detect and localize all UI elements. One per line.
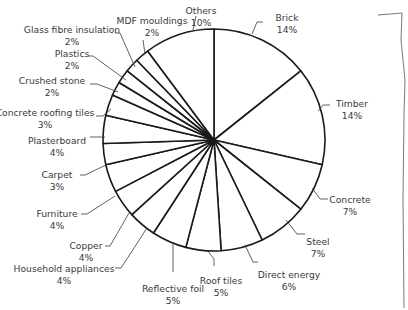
leader-line [115,33,135,67]
slice-label-name: Plasterboard [28,135,86,146]
slice-label-name: Direct energy [258,269,321,280]
leader-line [81,196,115,214]
slice-label-percent: 2% [145,27,160,38]
slice-label-percent: 4% [50,220,65,231]
slice-label: Concrete7% [329,194,371,217]
leader-line [143,40,145,54]
leader-line [80,164,108,175]
slice-label: Steel7% [306,236,329,259]
slice-label: Furniture4% [36,208,78,231]
slice-label-percent: 3% [50,181,65,192]
slice-label-percent: 2% [45,87,60,98]
slice-label: Direct energy6% [258,269,321,292]
slice-label: Reflective foil5% [142,283,204,306]
slice-label-name: Plastics [55,48,90,59]
slice-label: Household appliances4% [14,263,115,286]
leader-line [312,188,328,199]
slice-label-percent: 4% [57,275,72,286]
slice-label-name: Concrete roofing tiles [0,107,95,118]
slice-label-name: MDF mouldings [117,15,188,26]
leader-line [105,213,129,246]
slice-label-percent: 2% [65,36,80,47]
slice-label-percent: 5% [166,295,181,306]
slice-label-percent: 6% [282,281,297,292]
leader-line [115,228,147,268]
slice-label-name: Roof tiles [200,275,243,286]
slice-label: Roof tiles5% [200,275,243,298]
slice-label-name: Copper [69,240,102,251]
leader-line [88,56,126,80]
slice-label: Timber14% [335,98,368,121]
slice-label-name: Furniture [36,208,78,219]
slice-label-percent: 14% [277,24,298,35]
right-edge-bracket [378,13,405,308]
pie-chart: Brick14%Timber14%Concrete7%Steel7%Direct… [0,0,408,310]
slice-label-percent: 7% [311,248,326,259]
leader-line [252,22,263,34]
slice-label: Copper4% [69,240,102,263]
slice-label-name: Timber [335,98,368,109]
slice-label: Plastics2% [55,48,90,71]
slice-label: Others10% [186,5,217,28]
slice-label-percent: 7% [343,206,358,217]
slice-label-name: Brick [275,12,299,23]
leader-line [245,245,258,262]
slice-label-name: Reflective foil [142,283,204,294]
slice-label: Glass fibre insulation2% [24,24,121,47]
slice-label: Concrete roofing tiles3% [0,107,95,130]
slice-label-percent: 10% [191,17,212,28]
slice-label-name: Others [186,5,217,16]
slice-label: Brick14% [275,12,299,35]
slice-label-name: Household appliances [14,263,115,274]
slice-label-percent: 5% [214,287,229,298]
leader-line [207,250,214,266]
slice-label-percent: 14% [342,110,363,121]
slice-label-name: Glass fibre insulation [24,24,121,35]
slice-label-percent: 4% [50,147,65,158]
slice-label-name: Carpet [42,169,73,180]
slice-label-percent: 2% [65,60,80,71]
pie-slices [103,29,325,251]
slice-label: Carpet3% [42,169,73,192]
slice-label-name: Crushed stone [19,75,86,86]
slice-label-name: Steel [306,236,329,247]
slice-label-percent: 3% [38,119,53,130]
slice-label: Crushed stone2% [19,75,86,98]
slice-label: Plasterboard4% [28,135,86,158]
slice-label-percent: 4% [79,252,94,263]
slice-label-name: Concrete [329,194,371,205]
leader-line [90,84,118,92]
